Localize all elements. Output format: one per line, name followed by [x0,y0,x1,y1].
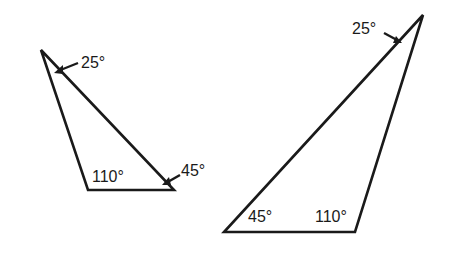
diagram-canvas: 25° 110° 45° 25° 45° 110° [0,0,473,254]
angle-label-bottom-right-large: 110° [315,208,347,225]
angle-label-bottom-left-small: 110° [92,168,124,185]
angle-label-apex-large: 25° [352,20,376,37]
large-triangle: 25° 45° 110° [224,15,423,232]
angle-label-bottom-left-large: 45° [248,208,272,225]
small-triangle: 25° 110° 45° [41,50,205,190]
angle-label-apex-small: 25° [81,54,105,71]
angle-label-bottom-right-small: 45° [181,162,205,179]
